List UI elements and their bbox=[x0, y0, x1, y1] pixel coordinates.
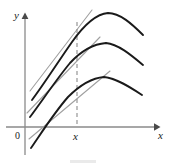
origin-label: 0 bbox=[15, 131, 20, 141]
production-curves bbox=[30, 13, 143, 148]
production-function-figure: y x x 0 bbox=[0, 0, 171, 168]
lower-curve bbox=[31, 77, 142, 148]
caption-artifact bbox=[70, 160, 96, 163]
tangent-lines bbox=[27, 10, 110, 139]
upper-tangent-line bbox=[30, 10, 92, 91]
y-axis-label: y bbox=[14, 10, 19, 21]
y-axis bbox=[22, 13, 29, 156]
x-axis-label: x bbox=[158, 130, 163, 141]
upper-curve bbox=[32, 13, 143, 100]
plot-canvas bbox=[0, 0, 171, 168]
lower-tangent-line bbox=[29, 71, 110, 139]
x-axis bbox=[6, 123, 161, 131]
x-tick-label: x bbox=[73, 131, 78, 142]
